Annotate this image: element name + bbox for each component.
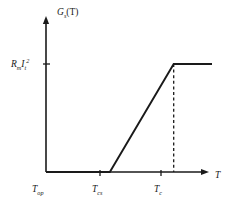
x-tick-label-tcs: Tcs: [92, 184, 103, 196]
y-tick-label-rmit2: RmIt2: [10, 57, 29, 70]
y-axis-label-paren: (T): [66, 7, 78, 18]
x-tick-label-tc: Tc: [154, 184, 162, 196]
y-axis-label: Gs(T): [57, 7, 78, 19]
curve-gs-of-t: [46, 64, 212, 172]
figure-container: Gs(T) RmIt2 Top Tcs Tc T: [0, 0, 240, 204]
x-tick-top-sub: op: [37, 189, 43, 196]
plot-svg: Gs(T) RmIt2 Top Tcs Tc T: [0, 0, 240, 204]
x-tick-tcs-sub: cs: [97, 189, 103, 196]
x-axis-arrowhead: [201, 169, 209, 175]
x-axis-label: T: [215, 170, 221, 180]
y-tick-i-sub: t: [24, 64, 26, 71]
x-tick-label-top: Top: [32, 184, 43, 196]
y-axis-arrowhead: [43, 16, 49, 24]
x-tick-tc-sub: c: [159, 189, 162, 196]
y-tick-i-sup: 2: [26, 57, 29, 64]
